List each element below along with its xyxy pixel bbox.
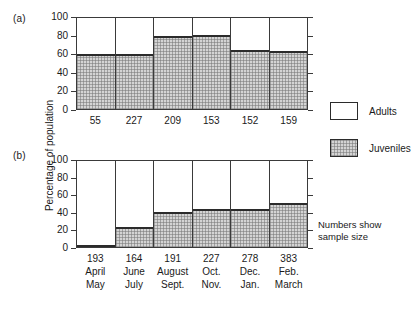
sample-size-value: 193 <box>76 252 115 265</box>
y-axis-tick-right <box>308 248 313 249</box>
bar-segment-juveniles <box>77 54 115 109</box>
y-axis-tick <box>71 178 76 179</box>
y-axis-tick-label: 80 <box>42 173 68 183</box>
x-axis-label-group: 227 <box>115 114 154 127</box>
y-axis-tick-right <box>308 73 313 74</box>
y-axis-tick-right <box>308 195 313 196</box>
sample-size-value: 191 <box>153 252 192 265</box>
sample-size-value: 159 <box>269 114 308 127</box>
x-axis-label-group: 152 <box>231 114 270 127</box>
month-label: July <box>115 278 154 291</box>
y-axis-tick-right <box>308 230 313 231</box>
x-axis-label-group: 159 <box>269 114 308 127</box>
month-label: August <box>153 265 192 278</box>
month-label: Nov. <box>192 278 231 291</box>
sample-size-value: 153 <box>192 114 231 127</box>
sample-size-value: 209 <box>153 114 192 127</box>
legend-label-adults: Adults <box>369 106 397 117</box>
month-label: Dec. <box>231 265 270 278</box>
bar-segment-juveniles <box>77 245 115 247</box>
bar-segment-juveniles <box>231 50 269 109</box>
y-axis-tick-label: 0 <box>42 105 68 115</box>
y-axis-tick <box>71 73 76 74</box>
bar-column <box>116 18 155 109</box>
month-label: June <box>115 265 154 278</box>
sample-size-value: 383 <box>269 252 308 265</box>
month-label: Sept. <box>153 278 192 291</box>
panel-label-b: (b) <box>13 150 26 161</box>
legend-label-juveniles: Juveniles <box>369 143 411 154</box>
chart-panel-a: 100806040200 55227209153152159 <box>76 17 308 110</box>
y-axis-tick-label: 80 <box>42 31 68 41</box>
y-axis-tick-label: 100 <box>42 155 68 165</box>
y-axis-tick-label: 60 <box>42 190 68 200</box>
bar-segment-juveniles <box>154 36 192 109</box>
x-axis-label-group: 191AugustSept. <box>153 252 192 291</box>
bar-segment-juveniles <box>231 209 269 247</box>
bar-segment-juveniles <box>270 203 308 247</box>
x-axis-label-group: 164JuneJuly <box>115 252 154 291</box>
y-axis-tick-right <box>308 160 313 161</box>
y-axis-tick-right <box>308 110 313 111</box>
bar-segment-juveniles <box>116 227 154 247</box>
y-axis-tick <box>71 36 76 37</box>
y-axis-tick-label: 60 <box>42 49 68 59</box>
x-axis-label-group: 209 <box>153 114 192 127</box>
month-label: April <box>76 265 115 278</box>
y-axis-tick-right <box>308 91 313 92</box>
sample-size-value: 164 <box>115 252 154 265</box>
bar-column <box>270 161 308 247</box>
panel-label-a: (a) <box>13 13 26 24</box>
y-axis-tick-label: 100 <box>42 12 68 22</box>
month-label: May <box>76 278 115 291</box>
bar-column <box>231 18 270 109</box>
y-axis-tick-label: 40 <box>42 68 68 78</box>
x-axis-label-group: 153 <box>192 114 231 127</box>
sample-size-note: Numbers show sample size <box>318 219 381 243</box>
bar-column <box>154 161 193 247</box>
bar-column <box>77 161 116 247</box>
x-axis-label-group: 55 <box>76 114 115 127</box>
x-axis-label-group: 193AprilMay <box>76 252 115 291</box>
x-axis-labels-b: 193AprilMay164JuneJuly191AugustSept.227O… <box>76 252 308 291</box>
sample-size-value: 227 <box>115 114 154 127</box>
y-axis-tick <box>71 195 76 196</box>
chart-panel-b: 100806040200 193AprilMay164JuneJuly191Au… <box>76 160 308 248</box>
month-label: Oct. <box>192 265 231 278</box>
y-axis-tick-label: 0 <box>42 243 68 253</box>
y-axis-tick-right <box>308 213 313 214</box>
bar-segment-juveniles <box>154 212 192 247</box>
bar-segment-juveniles <box>116 54 154 110</box>
legend-item-adults: Adults <box>330 102 411 120</box>
bar-column <box>154 18 193 109</box>
x-axis-labels-a: 55227209153152159 <box>76 114 308 127</box>
y-axis-tick <box>71 230 76 231</box>
bar-group-a <box>76 17 308 110</box>
x-axis-label-group: 278Dec.Jan. <box>231 252 270 291</box>
bar-segment-juveniles <box>193 35 231 109</box>
y-axis-tick <box>71 160 76 161</box>
y-axis-tick-right <box>308 17 313 18</box>
sample-size-value: 278 <box>231 252 270 265</box>
legend: Adults Juveniles <box>330 102 411 176</box>
sample-size-value: 152 <box>231 114 270 127</box>
y-axis-tick-right <box>308 54 313 55</box>
y-axis-tick <box>71 248 76 249</box>
bar-group-b <box>76 160 308 248</box>
month-label: Feb. <box>269 265 308 278</box>
y-axis-tick-label: 40 <box>42 208 68 218</box>
y-axis-tick-right <box>308 178 313 179</box>
y-axis-tick-label: 20 <box>42 86 68 96</box>
legend-swatch-juveniles-icon <box>330 139 358 157</box>
bar-column <box>193 161 232 247</box>
sample-size-value: 55 <box>76 114 115 127</box>
y-axis-tick <box>71 54 76 55</box>
month-label: Jan. <box>231 278 270 291</box>
month-label: March <box>269 278 308 291</box>
y-axis-tick <box>71 91 76 92</box>
y-axis-tick <box>71 17 76 18</box>
y-axis-tick-label: 20 <box>42 225 68 235</box>
figure-container: (a) (b) Percentage of population 1008060… <box>0 0 412 310</box>
bar-column <box>77 18 116 109</box>
legend-item-juveniles: Juveniles <box>330 139 411 157</box>
